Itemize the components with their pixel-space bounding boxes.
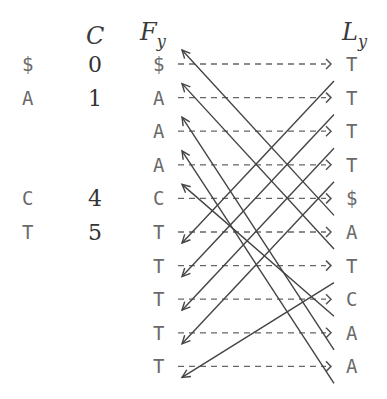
c-table-symbol: C	[22, 187, 33, 209]
f-cell: T	[153, 221, 164, 243]
arrowhead-left-icon	[182, 151, 190, 160]
arrowhead-right-icon	[326, 59, 331, 69]
c-table-symbol: A	[22, 87, 34, 109]
fl-rows: $TATATATC$TATTTCTATA	[153, 53, 358, 377]
header-f: Fy	[139, 18, 167, 51]
arrowhead-right-icon	[326, 93, 331, 103]
lf-arrow	[182, 117, 334, 350]
lf-arrow	[182, 182, 334, 344]
arrowhead-right-icon	[326, 193, 331, 203]
c-table: $0A1C4T5	[22, 52, 102, 245]
f-cell: C	[153, 187, 164, 209]
arrowhead-right-icon	[326, 328, 331, 338]
column-headers: C Fy Ly	[86, 18, 368, 51]
l-cell: A	[346, 221, 358, 243]
l-cell: T	[346, 154, 357, 176]
f-cell: A	[153, 87, 165, 109]
row-2: AT	[153, 120, 357, 142]
arrowhead-right-icon	[326, 294, 331, 304]
c-table-symbol: $	[22, 53, 33, 75]
f-cell: $	[153, 53, 164, 75]
lf-arrow	[182, 115, 334, 277]
l-cell: T	[346, 53, 357, 75]
l-cell: C	[346, 288, 357, 310]
lf-arrow	[182, 81, 334, 243]
arrowhead-left-icon	[182, 117, 190, 126]
lf-arrow	[182, 148, 334, 310]
header-l: Ly	[341, 18, 368, 51]
c-table-value: 4	[88, 186, 102, 211]
bwt-lf-mapping-diagram: C Fy Ly $0A1C4T5 $TATATATC$TATTTCTATA	[0, 0, 387, 399]
f-cell: T	[153, 255, 164, 277]
l-cell: A	[346, 355, 358, 377]
lf-arrow	[182, 50, 334, 215]
arrowhead-right-icon	[326, 126, 331, 136]
arrowhead-right-icon	[326, 227, 331, 237]
f-cell: T	[153, 288, 164, 310]
l-cell: A	[346, 322, 358, 344]
f-cell: T	[153, 322, 164, 344]
lf-arrow	[182, 84, 334, 249]
l-cell: T	[346, 255, 357, 277]
l-cell: T	[346, 87, 357, 109]
c-table-value: 5	[88, 220, 102, 245]
c-table-symbol: T	[22, 221, 33, 243]
arrowhead-left-icon	[182, 370, 191, 378]
arrowhead-right-icon	[326, 160, 331, 170]
f-cell: A	[153, 154, 165, 176]
arrowhead-right-icon	[326, 261, 331, 271]
c-table-value: 1	[88, 86, 102, 111]
lf-arrow	[182, 184, 334, 316]
lf-arrow	[182, 151, 334, 384]
arrowhead-right-icon	[326, 361, 331, 371]
c-table-value: 0	[88, 52, 102, 77]
f-cell: T	[153, 355, 164, 377]
header-c: C	[86, 22, 104, 50]
l-cell: T	[346, 120, 357, 142]
l-cell: $	[346, 187, 357, 209]
f-cell: A	[153, 120, 165, 142]
